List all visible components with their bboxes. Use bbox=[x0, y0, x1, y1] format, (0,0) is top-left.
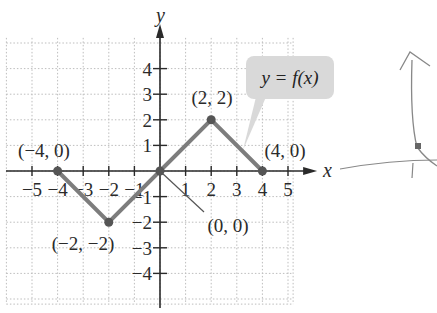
callout-label: y = f(x) bbox=[259, 67, 318, 89]
point-label: (−2, −2) bbox=[52, 233, 115, 255]
x-axis-arrow-icon bbox=[303, 167, 317, 175]
x-tick-label: −2 bbox=[99, 179, 119, 200]
x-tick-label: −4 bbox=[47, 179, 68, 200]
hand-sketch bbox=[340, 52, 437, 178]
sketch-curve bbox=[412, 60, 417, 147]
data-point bbox=[258, 167, 267, 176]
point-label: (−4, 0) bbox=[18, 140, 70, 162]
function-graph: y = f(x) xy−5−4−3−2−112345−4−3−2−11234 (… bbox=[0, 0, 437, 313]
sketch-arrowhead bbox=[400, 52, 430, 70]
data-point bbox=[207, 115, 216, 124]
x-tick-label: 4 bbox=[258, 179, 268, 200]
y-tick-label: −3 bbox=[132, 238, 152, 259]
point-label: (4, 0) bbox=[264, 140, 305, 162]
data-point bbox=[53, 167, 62, 176]
callout-pointer bbox=[243, 97, 266, 150]
y-tick-label: 3 bbox=[143, 84, 153, 105]
point-label: (0, 0) bbox=[207, 215, 248, 237]
graph-figure: y = f(x) xy−5−4−3−2−112345−4−3−2−11234 (… bbox=[0, 0, 437, 313]
sketch-point bbox=[415, 143, 421, 149]
x-tick-label: 2 bbox=[206, 179, 216, 200]
y-tick-label: −4 bbox=[132, 263, 153, 284]
y-tick-label: 2 bbox=[143, 110, 153, 131]
sketch-curve-tail bbox=[417, 147, 437, 166]
x-axis-label: x bbox=[322, 159, 332, 181]
y-axis-label: y bbox=[154, 4, 165, 27]
x-tick-label: −5 bbox=[22, 179, 42, 200]
x-tick-label: 3 bbox=[232, 179, 242, 200]
x-tick-label: 5 bbox=[283, 179, 293, 200]
point-label: (2, 2) bbox=[191, 87, 232, 109]
x-tick-label: 1 bbox=[181, 179, 191, 200]
data-point bbox=[104, 218, 113, 227]
sketch-tick bbox=[412, 163, 413, 178]
y-tick-label: 1 bbox=[143, 135, 153, 156]
sketch-axis-line bbox=[340, 160, 437, 169]
y-tick-label: −2 bbox=[132, 212, 152, 233]
y-tick-label: 4 bbox=[143, 59, 153, 80]
y-axis-arrow-icon bbox=[156, 24, 164, 38]
